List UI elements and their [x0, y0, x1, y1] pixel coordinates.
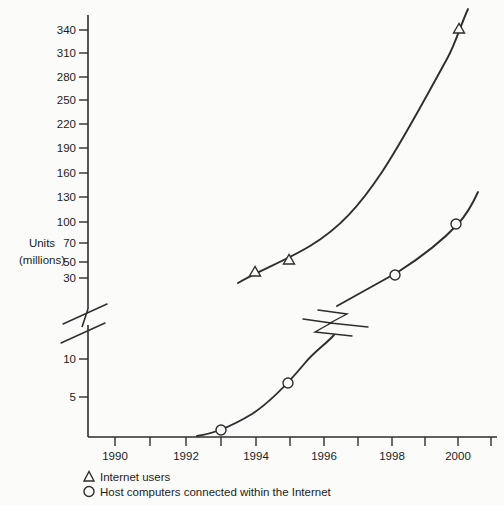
- circle-marker-1993: [216, 425, 226, 435]
- internet-users-markers: [250, 24, 465, 277]
- x-tick-label: 1994: [243, 450, 269, 462]
- triangle-marker-2000: [454, 24, 465, 34]
- legend-circle-icon: [84, 487, 94, 497]
- y-tick-label: 280: [57, 71, 76, 83]
- y-tick-label: 50: [63, 256, 76, 268]
- legend-label-internet-users: Internet users: [100, 471, 171, 483]
- y-tick-label: 250: [57, 94, 76, 106]
- y-tick-label: 5: [70, 391, 76, 403]
- x-ticks: 1990 1992 1994 1996 1998 2000: [102, 437, 491, 462]
- y-tick-label: 130: [57, 191, 76, 203]
- y-ticks-upper: 340 310 280 250 220 190 160 130 100 70 5…: [57, 24, 88, 284]
- circle-marker-2000: [451, 219, 461, 229]
- x-tick-label: 1992: [173, 450, 199, 462]
- y-tick-label: 310: [57, 47, 76, 59]
- circle-marker-1995: [283, 378, 293, 388]
- y-tick-label: 100: [57, 216, 76, 228]
- y-tick-label: 340: [57, 24, 76, 36]
- legend-triangle-icon: [84, 472, 94, 482]
- host-computers-markers: [216, 219, 461, 435]
- chart-canvas: 340 310 280 250 220 190 160 130 100 70 5…: [0, 0, 504, 505]
- host-computers-curve-upper-segment: [337, 192, 478, 306]
- y-tick-label: 190: [57, 142, 76, 154]
- y-tick-label: 220: [57, 118, 76, 130]
- x-tick-label: 1990: [102, 450, 128, 462]
- y-ticks-lower: 10 5: [63, 353, 88, 403]
- units-axis-label: Units (millions): [19, 237, 65, 266]
- curve-break: [303, 310, 368, 336]
- y-tick-label: 160: [57, 167, 76, 179]
- figure: 340 310 280 250 220 190 160 130 100 70 5…: [0, 0, 504, 505]
- y-tick-label: 30: [63, 272, 76, 284]
- y-axis-break-jog: [82, 309, 88, 327]
- legend: Internet users Host computers connected …: [84, 471, 332, 498]
- circle-marker-1998: [390, 270, 400, 280]
- host-computers-curve-lower-segment: [197, 335, 334, 436]
- x-tick-label: 2000: [445, 450, 471, 462]
- internet-users-curve: [238, 9, 468, 283]
- y-tick-label: 70: [63, 237, 76, 249]
- legend-label-host-computers: Host computers connected within the Inte…: [100, 486, 332, 498]
- x-tick-label: 1998: [379, 450, 405, 462]
- x-tick-label: 1996: [311, 450, 337, 462]
- units-axis-label-line2: (millions): [19, 254, 65, 266]
- units-axis-label-line1: Units: [29, 237, 55, 249]
- y-tick-label: 10: [63, 353, 76, 365]
